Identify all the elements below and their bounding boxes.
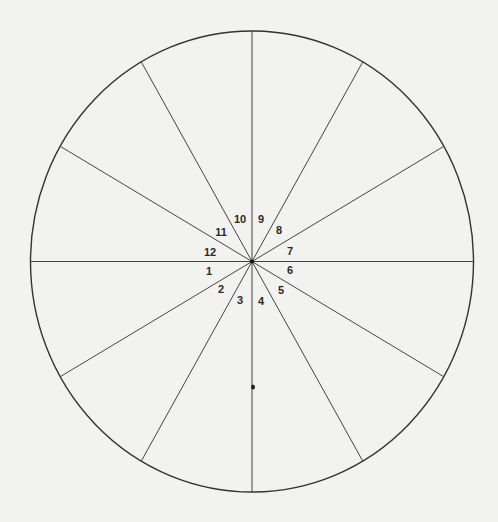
segment-label-12: 12 <box>204 246 216 258</box>
segment-label-1: 1 <box>206 265 212 277</box>
segment-label-7: 7 <box>287 245 293 257</box>
segment-label-2: 2 <box>218 283 224 295</box>
segment-label-4: 4 <box>258 295 265 307</box>
segment-labels: 1 2 3 4 5 6 7 8 9 10 11 12 <box>204 213 293 307</box>
segment-label-8: 8 <box>276 224 282 236</box>
segment-label-6: 6 <box>287 264 293 276</box>
segmented-circle-diagram: 1 2 3 4 5 6 7 8 9 10 11 12 <box>0 0 498 522</box>
segment-label-3: 3 <box>237 294 243 306</box>
segment-label-10: 10 <box>234 213 246 225</box>
marker-dot <box>251 385 255 390</box>
segment-label-9: 9 <box>258 213 264 225</box>
segment-label-5: 5 <box>278 284 284 296</box>
center-point <box>250 260 254 264</box>
segment-label-11: 11 <box>215 226 227 238</box>
